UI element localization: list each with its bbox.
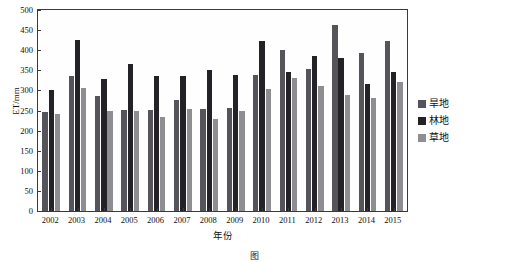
plot-inner: 050100150200250300350400450500: [38, 10, 407, 211]
y-axis-tick-label: 100: [7, 167, 33, 175]
bar-林地-2002: [49, 90, 54, 211]
bar-草地-2011: [292, 78, 297, 211]
bar-旱地-2014: [359, 53, 364, 211]
x-axis-tick-mark: [394, 208, 395, 211]
bar-林地-2005: [128, 64, 133, 211]
legend-item[interactable]: 林地: [418, 113, 504, 128]
legend: 旱地 林地 草地: [418, 96, 504, 147]
bar-草地-2002: [55, 114, 60, 211]
y-axis-tick-mark: [38, 70, 41, 71]
bar-林地-2003: [75, 40, 80, 211]
bar-草地-2004: [107, 111, 112, 211]
y-axis-tick-mark: [38, 30, 41, 31]
bar-旱地-2007: [174, 100, 179, 211]
legend-label: 草地: [429, 132, 449, 143]
legend-label: 林地: [429, 115, 449, 126]
bar-林地-2008: [207, 70, 212, 212]
y-axis-title: ET/mm: [11, 71, 21, 131]
bar-旱地-2008: [200, 109, 205, 211]
y-axis-tick-mark: [38, 111, 41, 112]
y-axis-tick-mark: [38, 90, 41, 91]
x-axis-tick-mark: [183, 208, 184, 211]
bar-草地-2015: [397, 82, 402, 211]
x-axis-title: 年份: [37, 228, 408, 242]
y-axis-tick-mark: [38, 131, 41, 132]
bar-旱地-2002: [42, 112, 47, 211]
bar-旱地-2013: [332, 25, 337, 211]
bar-林地-2013: [338, 58, 343, 211]
y-axis-tick-label: 300: [7, 86, 33, 94]
x-axis-tick-mark: [341, 208, 342, 211]
bar-旱地-2005: [121, 110, 126, 211]
bar-旱地-2004: [95, 96, 100, 211]
legend-swatch-icon: [418, 117, 426, 125]
bar-草地-2010: [266, 89, 271, 211]
x-axis-tick-mark: [315, 208, 316, 211]
y-axis-tick-label: 250: [7, 107, 33, 115]
bar-旱地-2003: [69, 76, 74, 211]
x-axis-tick-mark: [51, 208, 52, 211]
x-axis-tick-label: 2015: [373, 215, 413, 225]
y-axis-tick-mark: [38, 171, 41, 172]
bar-林地-2012: [312, 56, 317, 211]
y-axis-tick-label: 150: [7, 147, 33, 155]
y-axis-tick-label: 450: [7, 26, 33, 34]
bar-旱地-2010: [253, 75, 258, 211]
x-axis-tick-mark: [288, 208, 289, 211]
bar-旱地-2006: [148, 110, 153, 211]
legend-label: 旱地: [429, 98, 449, 109]
bar-林地-2010: [259, 41, 264, 211]
x-axis-tick-mark: [209, 208, 210, 211]
y-axis-tick-mark: [38, 211, 41, 212]
bar-林地-2009: [233, 75, 238, 211]
y-axis-tick-label: 200: [7, 127, 33, 135]
y-axis-tick-label: 400: [7, 46, 33, 54]
bar-草地-2009: [239, 111, 244, 212]
legend-item[interactable]: 旱地: [418, 96, 504, 111]
plot-area: 050100150200250300350400450500: [37, 9, 408, 212]
x-axis-tick-mark: [104, 208, 105, 211]
y-axis-tick-mark: [38, 10, 41, 11]
bar-旱地-2012: [306, 69, 311, 211]
bar-草地-2006: [160, 117, 165, 211]
bar-草地-2013: [345, 95, 350, 211]
bar-草地-2003: [81, 88, 86, 211]
x-axis-tick-mark: [236, 208, 237, 211]
bar-林地-2006: [154, 76, 159, 211]
bar-旱地-2009: [227, 108, 232, 211]
bar-草地-2008: [213, 119, 218, 211]
legend-item[interactable]: 草地: [418, 130, 504, 145]
y-axis-tick-mark: [38, 151, 41, 152]
y-axis-tick-label: 50: [7, 187, 33, 195]
figure-caption: 图: [0, 249, 509, 262]
x-axis-tick-mark: [78, 208, 79, 211]
legend-swatch-icon: [418, 134, 426, 142]
x-axis-tick-mark: [262, 208, 263, 211]
y-axis-tick-mark: [38, 50, 41, 51]
bar-草地-2012: [318, 86, 323, 211]
x-axis-tick-mark: [157, 208, 158, 211]
bar-旱地-2011: [280, 50, 285, 211]
y-axis-tick-label: 0: [7, 207, 33, 215]
x-axis-tick-mark: [367, 208, 368, 211]
bar-草地-2014: [371, 98, 376, 211]
bar-林地-2004: [101, 79, 106, 211]
y-axis-tick-label: 350: [7, 66, 33, 74]
y-axis-tick-label: 500: [7, 6, 33, 14]
bar-旱地-2015: [385, 41, 390, 211]
legend-swatch-icon: [418, 100, 426, 108]
x-axis-tick-mark: [130, 208, 131, 211]
bar-草地-2007: [187, 109, 192, 211]
bar-林地-2007: [180, 76, 185, 211]
bar-林地-2015: [391, 72, 396, 211]
bar-林地-2011: [286, 72, 291, 211]
y-axis-tick-mark: [38, 191, 41, 192]
bar-林地-2014: [365, 84, 370, 211]
bar-草地-2005: [134, 111, 139, 212]
